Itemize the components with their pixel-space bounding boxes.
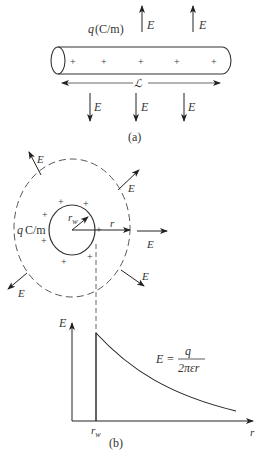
formula-denominator: 2πεr <box>178 361 200 375</box>
radius-label: r <box>110 217 115 229</box>
rw-tick-label: rw <box>91 424 101 439</box>
x-axis-label: r <box>250 426 255 438</box>
wire-radius-label: rw <box>68 211 78 226</box>
charge-unit: (C/m) <box>95 22 124 36</box>
charge-q: q <box>17 223 23 237</box>
wire-end-ellipse <box>51 47 65 74</box>
y-axis-label: E <box>58 316 67 330</box>
plus-charge: + <box>58 196 64 207</box>
field-label: E <box>146 18 155 32</box>
caption-b: (b) <box>109 436 123 450</box>
plus-charge: + <box>61 256 67 267</box>
plus-charge: + <box>138 56 144 67</box>
length-label: ℒ <box>134 77 143 89</box>
caption-a: (a) <box>128 130 141 144</box>
field-label: E <box>36 153 44 165</box>
formula-lhs: E = <box>155 352 174 366</box>
wire-cylinder <box>58 47 231 74</box>
field-curve <box>96 333 236 411</box>
field-label: E <box>93 100 102 114</box>
plus-charge: + <box>211 56 217 67</box>
field-label: E <box>146 238 154 250</box>
field-label: E <box>17 287 25 299</box>
field-label: E <box>140 100 149 114</box>
field-label: E <box>187 100 196 114</box>
field-label: E <box>141 270 149 282</box>
figure-a: E E q (C/m) + + + + + ℒ E E E (a) <box>51 6 231 144</box>
charge-q: q <box>88 22 94 36</box>
charge-unit: C/m <box>25 223 46 237</box>
plus-charge: + <box>87 251 93 262</box>
field-label: E <box>198 18 207 32</box>
field-label: E <box>127 182 135 194</box>
plus-charge: + <box>70 56 76 67</box>
field-arrow-icon <box>121 270 144 286</box>
figure-b: + + + + + + + q C/m rw r E E E E E E <box>8 152 255 450</box>
field-plot: E r rw E = q 2πεr <box>58 316 255 439</box>
field-diagram: E E q (C/m) + + + + + ℒ E E E (a) + + <box>0 0 263 454</box>
formula-numerator: q <box>185 344 191 358</box>
plus-charge: + <box>83 198 89 209</box>
plus-charge: + <box>101 56 107 67</box>
plus-charge: + <box>174 56 180 67</box>
plus-charge: + <box>42 209 48 220</box>
